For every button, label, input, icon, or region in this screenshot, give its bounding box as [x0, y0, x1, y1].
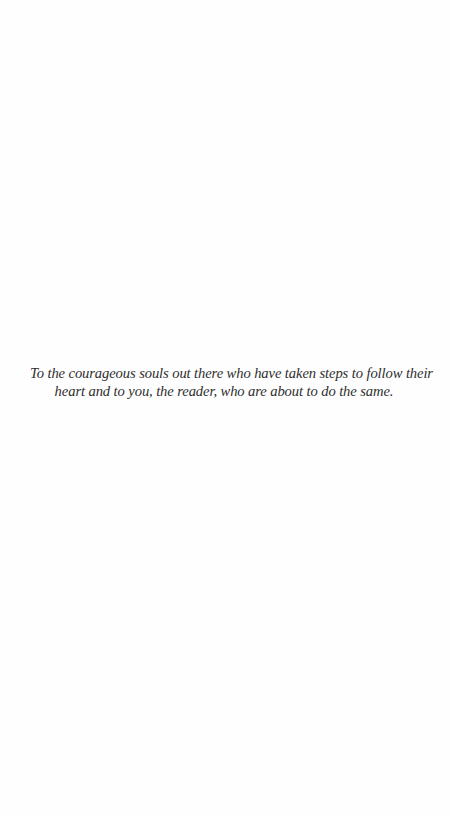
dedication-line-1: To the courageous souls out there who ha…: [30, 364, 418, 382]
dedication-line-2: heart and to you, the reader, who are ab…: [30, 382, 418, 400]
book-page: To the courageous souls out there who ha…: [0, 0, 451, 816]
dedication-text: To the courageous souls out there who ha…: [30, 364, 418, 400]
